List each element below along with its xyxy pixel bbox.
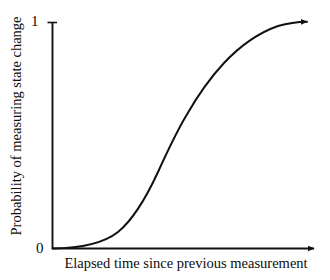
- chart-figure: 1 0 Probability of measuring state chang…: [0, 0, 330, 280]
- y-axis-tick-label-bottom: 0: [36, 241, 44, 256]
- chart-plot-area: [0, 0, 330, 280]
- x-axis-title: Elapsed time since previous measurement: [52, 256, 320, 272]
- y-axis-title: Probability of measuring state change: [9, 16, 25, 235]
- sigmoid-curve: [53, 22, 308, 249]
- y-axis-title-container: Probability of measuring state change: [0, 0, 34, 252]
